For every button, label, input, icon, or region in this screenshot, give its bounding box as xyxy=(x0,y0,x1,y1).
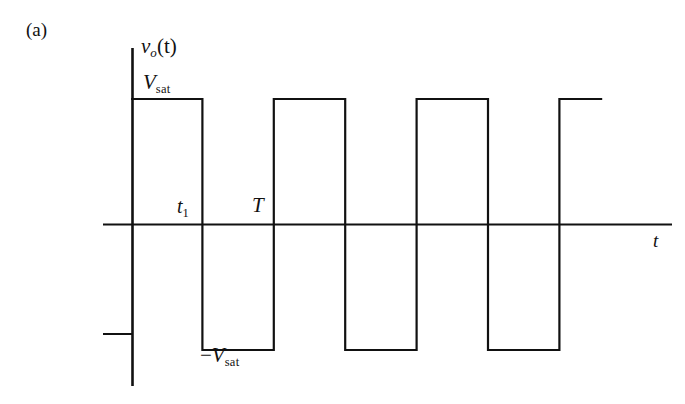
time-symbol: t xyxy=(653,230,658,251)
negative-saturation-label: −Vsat xyxy=(200,345,239,368)
positive-saturation-label: Vsat xyxy=(143,72,171,95)
vsat-subscript: sat xyxy=(156,82,171,96)
square-wave-plot xyxy=(0,0,685,404)
vsat-symbol: V xyxy=(143,70,156,94)
period-symbol: T xyxy=(252,193,264,217)
time-axis-label: t xyxy=(653,231,658,250)
negative-vsat-symbol: V xyxy=(212,343,225,367)
signal-argument: (t) xyxy=(157,34,177,58)
t1-label: t1 xyxy=(177,196,189,219)
signal-symbol: v xyxy=(141,34,150,58)
figure-container: (a) vo(t) Vsat −Vsat t1 T t xyxy=(0,0,685,404)
panel-label: (a) xyxy=(26,20,47,39)
minus-sign: − xyxy=(200,343,212,367)
negative-vsat-subscript: sat xyxy=(225,355,240,369)
period-label: T xyxy=(252,195,264,216)
y-axis-signal-label: vo(t) xyxy=(141,36,177,59)
t1-subscript: 1 xyxy=(183,206,189,220)
